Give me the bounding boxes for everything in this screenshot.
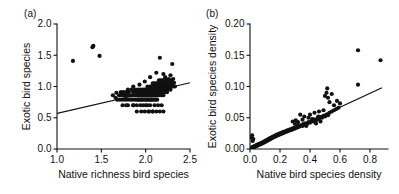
y-axis-title: Exotic bird species (20, 43, 32, 131)
x-tick-label: 0.6 (333, 154, 347, 165)
regression-line (250, 88, 382, 149)
y-tick-label: 0.00 (225, 143, 245, 154)
panel-b: (b) 0.000.050.100.150.200.00.20.40.60.8N… (200, 0, 399, 194)
data-point (158, 56, 162, 60)
y-tick-label: 2.0 (38, 18, 52, 29)
data-point (378, 58, 382, 62)
data-point (326, 96, 330, 100)
figure-container: (a) 0.00.51.01.52.01.01.52.02.5Native ri… (0, 0, 399, 194)
y-tick-label: 0.20 (225, 18, 245, 29)
data-point (250, 133, 254, 137)
x-tick-label: 0.0 (243, 154, 257, 165)
y-tick-label: 0.15 (225, 50, 245, 61)
scatter-plot-a: 0.00.51.01.52.01.01.52.02.5Native richne… (0, 0, 199, 194)
y-tick-label: 1.5 (38, 50, 52, 61)
data-point (324, 91, 328, 95)
data-point (251, 137, 255, 141)
data-point (131, 84, 135, 88)
x-axis-title: Native richness bird species (58, 168, 189, 180)
data-point (145, 103, 149, 107)
data-point (312, 111, 316, 115)
data-point (91, 44, 95, 48)
x-tick-label: 0.2 (273, 154, 287, 165)
data-point (97, 54, 101, 58)
y-tick-label: 1.0 (38, 81, 52, 92)
data-point (308, 113, 312, 117)
x-tick-label: 0.4 (303, 154, 317, 165)
data-point (126, 88, 130, 92)
data-point (171, 77, 175, 81)
data-point (356, 48, 360, 52)
x-tick-label: 2.5 (183, 154, 197, 165)
data-point (302, 114, 306, 118)
data-point (318, 119, 322, 123)
x-tick-label: 1.0 (50, 154, 64, 165)
data-point (155, 98, 159, 102)
x-axis-title: Native bird species density (257, 168, 383, 180)
data-point (356, 83, 360, 87)
data-point (131, 103, 135, 107)
x-tick-label: 2.0 (139, 154, 153, 165)
data-point (167, 77, 171, 81)
data-point (154, 71, 158, 75)
x-tick-label: 0.8 (363, 154, 377, 165)
data-point (321, 108, 325, 112)
data-point (121, 103, 125, 107)
y-tick-label: 0.0 (38, 143, 52, 154)
data-point (296, 120, 300, 124)
y-tick-label: 0.05 (225, 112, 245, 123)
data-point (161, 72, 165, 76)
data-point (161, 109, 165, 113)
data-point (148, 75, 152, 79)
data-point (298, 113, 302, 117)
data-point (332, 103, 336, 107)
data-point (135, 109, 139, 113)
data-point (338, 101, 342, 105)
y-axis-title: Exotic bird species density (206, 24, 218, 148)
data-point (143, 79, 147, 83)
x-tick-label: 1.5 (94, 154, 108, 165)
y-tick-label: 0.10 (225, 81, 245, 92)
scatter-plot-b: 0.000.050.100.150.200.00.20.40.60.8Nativ… (200, 0, 399, 194)
data-point (71, 59, 75, 63)
data-point (172, 81, 176, 85)
data-point (317, 109, 321, 113)
data-point (170, 62, 174, 66)
data-point (314, 121, 318, 125)
data-point (168, 73, 172, 77)
data-point (327, 100, 331, 104)
data-point (137, 83, 141, 87)
data-point (160, 103, 164, 107)
regression-line (57, 83, 190, 114)
y-tick-label: 0.5 (38, 112, 52, 123)
data-point (330, 92, 334, 96)
data-point (304, 124, 308, 128)
data-point (325, 86, 329, 90)
panel-a: (a) 0.00.51.01.52.01.01.52.02.5Native ri… (0, 0, 199, 194)
